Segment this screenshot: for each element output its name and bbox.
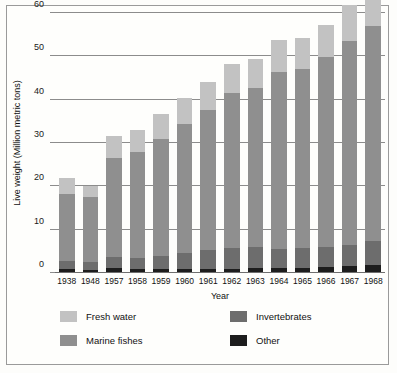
bar-1958[interactable] (130, 130, 146, 273)
bar-segment-fresh-1958[interactable] (130, 130, 146, 152)
x-tick-label-1960: 1960 (173, 276, 197, 287)
bar-segment-inv-1965[interactable] (295, 248, 311, 268)
x-tick-label-1958: 1958 (126, 276, 150, 287)
x-tick-label-1964: 1964 (267, 276, 291, 287)
legend-item-other[interactable]: Other (230, 335, 280, 346)
bar-1965[interactable] (295, 38, 311, 273)
bar-segment-fresh-1966[interactable] (318, 25, 334, 57)
x-tick-label-1965: 1965 (291, 276, 315, 287)
x-tick-label-1938: 1938 (55, 276, 79, 287)
bar-1960[interactable] (177, 98, 193, 273)
chart-legend: Fresh waterMarine fishesInvertebratesOth… (60, 311, 360, 357)
bar-segment-marine-1968[interactable] (365, 26, 381, 242)
legend-swatch-icon-other (230, 335, 247, 346)
y-tick-label-30: 30 (34, 130, 44, 139)
bar-segment-inv-1966[interactable] (318, 247, 334, 267)
bar-segment-marine-1963[interactable] (248, 88, 264, 247)
bar-segment-inv-1967[interactable] (342, 245, 358, 266)
bar-segment-inv-1968[interactable] (365, 241, 381, 264)
legend-label: Invertebrates (256, 311, 311, 322)
x-tick-label-1961: 1961 (196, 276, 220, 287)
bar-1957[interactable] (106, 136, 122, 273)
bar-segment-inv-1961[interactable] (200, 250, 216, 269)
bar-segment-inv-1958[interactable] (130, 258, 146, 269)
bar-segment-marine-1962[interactable] (224, 93, 240, 248)
chart-figure: Live weight (Million metric tons) 010203… (0, 0, 397, 373)
y-tick-label-50: 50 (34, 43, 44, 52)
bar-segment-marine-1948[interactable] (83, 197, 99, 262)
bar-segment-marine-1965[interactable] (295, 69, 311, 248)
bar-segment-fresh-1957[interactable] (106, 136, 122, 158)
legend-item-invertebrates[interactable]: Invertebrates (230, 311, 311, 322)
legend-item-marine-fishes[interactable]: Marine fishes (60, 335, 143, 346)
bar-segment-fresh-1938[interactable] (59, 178, 75, 194)
bar-segment-marine-1959[interactable] (153, 139, 169, 256)
legend-label: Other (256, 335, 280, 346)
y-tick-label-40: 40 (34, 87, 44, 96)
bar-segment-fresh-1968[interactable] (365, 0, 381, 26)
x-tick-label-1962: 1962 (220, 276, 244, 287)
y-tick-label-60: 60 (34, 0, 44, 9)
bar-segment-fresh-1964[interactable] (271, 40, 287, 71)
bar-segment-marine-1964[interactable] (271, 72, 287, 249)
bar-segment-marine-1958[interactable] (130, 152, 146, 258)
x-tick-label-1959: 1959 (149, 276, 173, 287)
bar-segment-marine-1966[interactable] (318, 57, 334, 247)
bar-segment-marine-1957[interactable] (106, 158, 122, 257)
bar-series-group (55, 13, 385, 273)
plot-area (55, 13, 385, 273)
y-tick-label-20: 20 (34, 173, 44, 182)
x-axis-tick-labels: 1938194819571958195919601961196219631964… (55, 276, 385, 288)
bar-segment-inv-1957[interactable] (106, 257, 122, 269)
bar-segment-fresh-1967[interactable] (342, 5, 358, 41)
x-tick-label-1963: 1963 (244, 276, 268, 287)
legend-swatch-icon-invertebrates (230, 311, 247, 322)
bar-segment-fresh-1961[interactable] (200, 82, 216, 111)
legend-item-fresh-water[interactable]: Fresh water (60, 311, 136, 322)
bar-segment-fresh-1948[interactable] (83, 186, 99, 197)
x-tick-label-1957: 1957 (102, 276, 126, 287)
x-axis-title: Year (55, 291, 385, 301)
x-tick-label-1968: 1968 (361, 276, 385, 287)
x-tick-label-1948: 1948 (79, 276, 103, 287)
bar-segment-fresh-1962[interactable] (224, 64, 240, 93)
bar-1959[interactable] (153, 114, 169, 273)
bar-segment-marine-1960[interactable] (177, 124, 193, 253)
bar-segment-inv-1938[interactable] (59, 261, 75, 269)
bar-segment-marine-1961[interactable] (200, 110, 216, 250)
legend-swatch-icon-fresh-water (60, 311, 77, 322)
y-tick-label-10: 10 (34, 217, 44, 226)
bar-1966[interactable] (318, 25, 334, 273)
bar-segment-inv-1948[interactable] (83, 262, 99, 269)
bar-1948[interactable] (83, 186, 99, 273)
y-tick-label-0: 0 (39, 260, 44, 269)
bar-1967[interactable] (342, 5, 358, 273)
x-tick-label-1966: 1966 (314, 276, 338, 287)
bar-segment-fresh-1965[interactable] (295, 38, 311, 69)
bar-segment-fresh-1963[interactable] (248, 59, 264, 88)
bar-1938[interactable] (59, 178, 75, 273)
bar-segment-inv-1963[interactable] (248, 247, 264, 268)
bar-segment-inv-1960[interactable] (177, 253, 193, 269)
x-axis-baseline (55, 272, 385, 273)
bar-segment-inv-1962[interactable] (224, 248, 240, 268)
bar-segment-inv-1959[interactable] (153, 256, 169, 269)
bar-segment-marine-1967[interactable] (342, 41, 358, 245)
bar-segment-inv-1964[interactable] (271, 249, 287, 269)
bar-segment-fresh-1960[interactable] (177, 98, 193, 125)
bar-segment-fresh-1959[interactable] (153, 114, 169, 139)
bar-1962[interactable] (224, 64, 240, 273)
bar-1968[interactable] (365, 0, 381, 273)
bar-1961[interactable] (200, 82, 216, 274)
bar-1963[interactable] (248, 59, 264, 273)
legend-swatch-icon-marine-fishes (60, 335, 77, 346)
y-axis-tick-labels: 0102030405060 (0, 13, 52, 273)
legend-label: Fresh water (86, 311, 136, 322)
bar-1964[interactable] (271, 40, 287, 273)
legend-label: Marine fishes (86, 335, 143, 346)
x-tick-label-1967: 1967 (338, 276, 362, 287)
bar-segment-marine-1938[interactable] (59, 194, 75, 261)
